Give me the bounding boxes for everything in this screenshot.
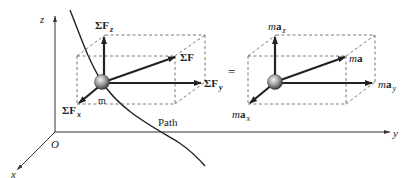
z-axis-label: z	[39, 13, 45, 25]
ma-resultant-arrow	[275, 57, 345, 82]
force-z-label: ΣFz	[95, 19, 114, 34]
force-resultant-arrow	[104, 57, 175, 82]
force-x-label: ΣFx	[62, 104, 81, 119]
origin-label: O	[51, 138, 59, 150]
mass-sphere	[95, 75, 110, 90]
coordinate-axes	[17, 16, 390, 170]
ma-y-label: may	[378, 78, 396, 93]
mass-label: m	[98, 95, 106, 106]
path-curve	[70, 10, 205, 166]
force-resultant-label: ΣF	[180, 51, 194, 63]
acceleration-vectors	[250, 37, 372, 103]
force-vectors	[79, 37, 201, 103]
free-body-diagram: z y x O Path m ΣFz ΣF ΣFy ΣFx =	[0, 0, 410, 178]
x-axis	[17, 132, 55, 170]
mass-sphere-right	[268, 75, 283, 90]
ma-resultant-label: ma	[349, 52, 363, 64]
force-y-label: ΣFy	[204, 77, 223, 92]
y-axis-label: y	[392, 127, 398, 139]
x-axis-label: x	[10, 168, 16, 178]
ma-x-label: max	[232, 108, 250, 123]
equals-sign: =	[228, 64, 235, 79]
ma-z-label: maz	[268, 20, 286, 35]
path-label: Path	[158, 116, 178, 128]
